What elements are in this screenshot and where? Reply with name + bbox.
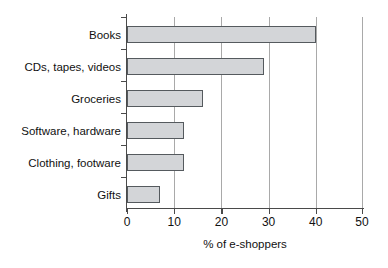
x-tick-label-30: 30 xyxy=(249,215,289,229)
bar-gifts xyxy=(127,186,160,203)
x-axis-title: % of e-shoppers xyxy=(127,238,363,250)
x-tick-label-40: 40 xyxy=(296,215,336,229)
x-tick-label-20: 20 xyxy=(201,215,241,229)
category-label-books: Books xyxy=(0,29,121,42)
x-tick-label-0: 0 xyxy=(107,215,147,229)
x-tick-label-50: 50 xyxy=(342,215,382,229)
bar-cds-tapes-videos xyxy=(127,58,264,75)
category-label-text: Software, hardware xyxy=(21,125,121,137)
x-axis-tick-40 xyxy=(316,209,317,214)
gridline-10 xyxy=(174,17,175,209)
category-label-text: CDs, tapes, videos xyxy=(24,61,121,73)
bar-chart: Books CDs, tapes, videos Groceries Softw… xyxy=(0,0,388,268)
category-label-gifts: Gifts xyxy=(0,189,121,202)
gridline-50 xyxy=(362,17,363,209)
category-label-text: Groceries xyxy=(71,93,121,105)
category-label-clothing-footware: Clothing, footware xyxy=(0,157,121,170)
x-axis-tick-50 xyxy=(362,209,363,214)
x-axis-line xyxy=(126,208,364,209)
y-axis-tick xyxy=(121,177,126,178)
x-axis-tick-30 xyxy=(269,209,270,214)
gridline-40 xyxy=(316,17,317,209)
plot-area xyxy=(127,17,363,209)
category-label-software-hardware: Software, hardware xyxy=(0,125,121,138)
category-label-groceries: Groceries xyxy=(0,93,121,106)
x-tick-label-10: 10 xyxy=(154,215,194,229)
y-axis-tick xyxy=(121,145,126,146)
y-axis-tick xyxy=(121,49,126,50)
gridline-20 xyxy=(221,17,222,209)
y-axis-line xyxy=(126,14,127,212)
y-axis-tick xyxy=(121,81,126,82)
category-label-text: Books xyxy=(89,29,121,41)
gridline-30 xyxy=(269,17,270,209)
y-axis-tick xyxy=(121,17,126,18)
category-label-text: Clothing, footware xyxy=(28,157,121,169)
bar-software-hardware xyxy=(127,122,184,139)
x-axis-tick-0 xyxy=(127,209,128,214)
category-label-cds-tapes-videos: CDs, tapes, videos xyxy=(0,61,121,74)
bar-clothing-footware xyxy=(127,154,184,171)
category-label-text: Gifts xyxy=(97,189,121,201)
x-axis-tick-20 xyxy=(221,209,222,214)
bar-books xyxy=(127,26,316,43)
bar-groceries xyxy=(127,90,203,107)
x-axis-tick-10 xyxy=(174,209,175,214)
y-axis-tick xyxy=(121,113,126,114)
